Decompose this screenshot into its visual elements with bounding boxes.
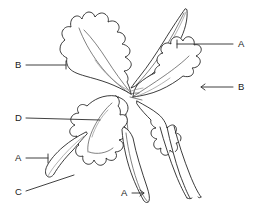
upper-left-petal xyxy=(60,12,131,94)
flower-drawing xyxy=(46,9,202,203)
label-b-left: B xyxy=(15,59,21,70)
label-a-left: A xyxy=(15,152,22,163)
orchid-diagram-canvas: A B B D A C A xyxy=(0,0,259,223)
label-a-right: A xyxy=(238,38,245,49)
label-d-left: D xyxy=(15,112,22,123)
lower-right-sepal-strip-tip xyxy=(187,198,192,199)
label-b-right: B xyxy=(238,81,244,92)
lower-right-sepal-strip-tip-2 xyxy=(198,197,201,198)
orchid-diagram: A B B D A C A xyxy=(0,0,259,223)
label-c-left: C xyxy=(15,186,22,197)
center-radiating-line-2 xyxy=(130,97,142,100)
label-a-bottom: A xyxy=(121,187,128,198)
